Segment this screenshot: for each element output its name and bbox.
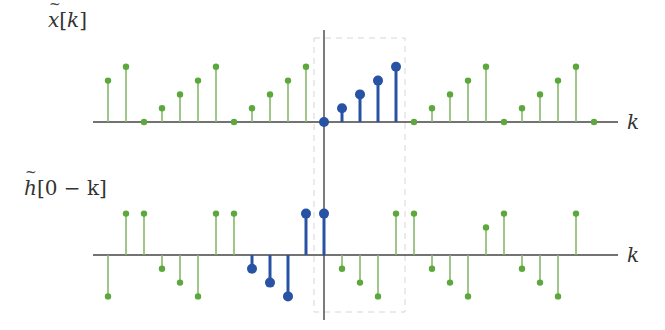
sample-dot	[267, 91, 273, 97]
sample-dot	[591, 119, 597, 125]
sample-dot	[141, 119, 147, 125]
top-signal-label: x[k]	[48, 10, 87, 30]
sample-dot	[123, 210, 129, 216]
sample-dot	[339, 266, 345, 272]
sample-dot	[465, 293, 471, 299]
top-signal-arg-close: ]	[79, 8, 87, 32]
highlighted-sample-dot	[319, 209, 329, 219]
sample-dot	[213, 64, 219, 70]
sample-dot	[447, 91, 453, 97]
sample-dot	[483, 64, 489, 70]
sample-dot	[105, 293, 111, 299]
highlighted-sample-dot	[301, 209, 311, 219]
sample-dot	[537, 279, 543, 285]
sample-dot	[483, 224, 489, 230]
convolution-stem-diagram	[0, 0, 665, 330]
bottom-signal-arg: [0 − k]	[37, 176, 107, 200]
bottom-signal-base: h	[24, 176, 37, 200]
sample-dot	[231, 210, 237, 216]
sample-dot	[303, 64, 309, 70]
sample-dot	[501, 210, 507, 216]
sample-dot	[159, 266, 165, 272]
highlighted-sample-dot	[391, 62, 401, 72]
sample-dot	[555, 77, 561, 83]
sample-dot	[123, 64, 129, 70]
sample-dot	[447, 279, 453, 285]
top-stem-series	[105, 62, 597, 127]
sample-dot	[573, 64, 579, 70]
top-signal-arg-k: k	[67, 8, 79, 32]
highlighted-sample-dot	[265, 278, 275, 288]
bottom-signal-label: h[0 − k]	[24, 178, 107, 198]
bottom-axis-label: k	[627, 245, 639, 265]
sample-dot	[501, 119, 507, 125]
sample-dot	[429, 105, 435, 111]
highlighted-sample-dot	[373, 76, 383, 86]
sample-dot	[159, 105, 165, 111]
sample-dot	[249, 105, 255, 111]
sample-dot	[177, 279, 183, 285]
top-signal-base: x	[48, 8, 59, 32]
sample-dot	[357, 279, 363, 285]
sample-dot	[195, 77, 201, 83]
sample-dot	[519, 266, 525, 272]
sample-dot	[537, 91, 543, 97]
sample-dot	[213, 210, 219, 216]
sample-dot	[375, 293, 381, 299]
sample-dot	[285, 77, 291, 83]
highlighted-sample-dot	[355, 89, 365, 99]
sample-dot	[195, 293, 201, 299]
sample-dot	[411, 210, 417, 216]
sample-dot	[465, 77, 471, 83]
sample-dot	[411, 119, 417, 125]
sample-dot	[231, 119, 237, 125]
highlighted-sample-dot	[247, 264, 257, 274]
highlighted-sample-dot	[283, 291, 293, 301]
sample-dot	[519, 105, 525, 111]
sample-dot	[429, 266, 435, 272]
top-axis-label: k	[627, 112, 639, 132]
sample-dot	[177, 91, 183, 97]
sample-dot	[573, 210, 579, 216]
highlighted-sample-dot	[337, 103, 347, 113]
sample-dot	[555, 293, 561, 299]
highlighted-sample-dot	[319, 117, 329, 127]
sample-dot	[393, 210, 399, 216]
sample-dot	[105, 77, 111, 83]
sample-dot	[141, 210, 147, 216]
